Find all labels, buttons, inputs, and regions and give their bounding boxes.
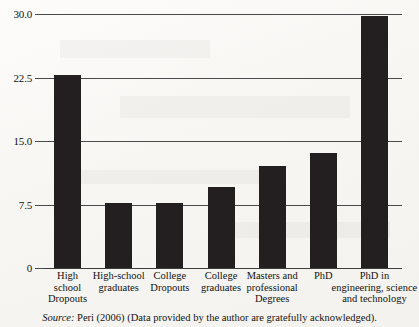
chart-figure: 30.022.515.07.50 HighschoolDropoutsHigh-… <box>0 0 419 327</box>
bar <box>156 203 183 268</box>
bar <box>259 166 286 268</box>
y-tick-mark <box>35 268 44 269</box>
x-category-label-line: PhD in <box>330 270 418 282</box>
x-category-label-line: engineering, science <box>330 282 418 294</box>
source-text: Peri (2006) (Data provided by the author… <box>77 312 377 323</box>
x-axis-category-labels: HighschoolDropoutsHigh-schoolgraduatesCo… <box>44 270 419 312</box>
y-tick-mark <box>35 205 44 206</box>
source-note: Source: Peri (2006) (Data provided by th… <box>0 312 419 323</box>
y-tick-label: 0 <box>27 262 32 274</box>
x-category-label-line: and technology <box>330 293 418 305</box>
x-category-label: PhD inengineering, scienceand technology <box>330 270 418 305</box>
bar <box>361 16 388 268</box>
gridline-0: 0 <box>44 268 402 269</box>
bar <box>208 187 235 268</box>
bar-series <box>44 14 402 268</box>
y-tick-label: 7.5 <box>19 199 32 211</box>
x-category-label-line: Degrees <box>239 293 305 305</box>
source-label: Source: <box>42 312 74 323</box>
y-tick-label: 22.5 <box>14 72 32 84</box>
y-tick-mark <box>35 14 44 15</box>
y-tick-label: 15.0 <box>14 135 32 147</box>
x-category-label-line: professional <box>239 282 305 294</box>
x-category-label-line: Dropouts <box>38 293 98 305</box>
plot-area: 30.022.515.07.50 <box>44 14 402 268</box>
y-tick-mark <box>35 78 44 79</box>
bar <box>105 203 132 268</box>
y-tick-label: 30.0 <box>14 8 32 20</box>
bar <box>310 153 337 268</box>
y-tick-mark <box>35 141 44 142</box>
bar <box>54 75 81 268</box>
